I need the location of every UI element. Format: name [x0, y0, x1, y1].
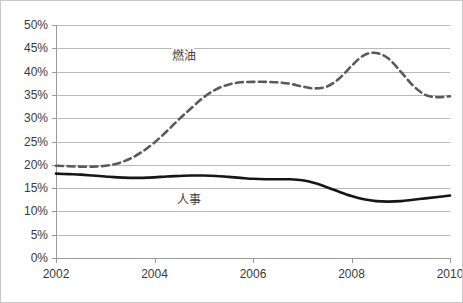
- y-tick-label: 5%: [31, 228, 49, 242]
- series-annotation-fuel: 燃油: [172, 48, 196, 63]
- x-tick-label: 2004: [141, 267, 168, 281]
- y-tick-label: 50%: [24, 18, 48, 32]
- x-tick-label: 2008: [338, 267, 365, 281]
- y-tick-label: 40%: [24, 65, 48, 79]
- y-tick-label: 0%: [31, 251, 49, 265]
- y-tick-label: 30%: [24, 111, 48, 125]
- chart-background: [0, 0, 463, 303]
- line-chart: 50%45%40%35%30%25%20%15%10%5%0% 20022004…: [0, 0, 463, 303]
- y-tick-label: 10%: [24, 204, 48, 218]
- y-tick-label: 35%: [24, 88, 48, 102]
- y-tick-label: 15%: [24, 181, 48, 195]
- chart-container: 50%45%40%35%30%25%20%15%10%5%0% 20022004…: [0, 0, 463, 303]
- y-tick-label: 20%: [24, 158, 48, 172]
- x-tick-label: 2010: [437, 267, 463, 281]
- y-tick-label: 25%: [24, 135, 48, 149]
- series-annotation-personnel: 人事: [177, 193, 201, 207]
- x-tick-label: 2002: [43, 267, 70, 281]
- y-tick-label: 45%: [24, 41, 48, 55]
- x-tick-label: 2006: [240, 267, 267, 281]
